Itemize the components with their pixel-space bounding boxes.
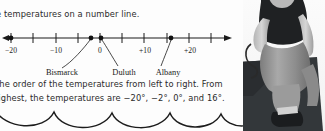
axis-arrow-right-icon — [224, 35, 232, 41]
axis-tick-label-plus20: +20 — [184, 46, 196, 55]
axis-tick-label-minus10: −10 — [50, 46, 62, 55]
axis-tick-label-minus20: −20 — [5, 46, 17, 55]
leader-line-duluth — [102, 40, 118, 66]
leader-line-bismarck — [62, 40, 90, 68]
city-label-albany: Albany — [156, 68, 181, 77]
leader-line-albany — [161, 40, 171, 66]
conclusion-sentence-line-1: the order of the temperatures from left … — [0, 79, 223, 90]
axis-tick-label-plus10: +10 — [139, 46, 151, 55]
person-crouching-photo — [243, 0, 325, 131]
city-label-duluth: Duluth — [112, 68, 136, 77]
scalloped-cloud-border — [0, 100, 268, 131]
axis-arrow-left-icon — [2, 35, 9, 41]
city-label-bismarck: Bismarck — [46, 68, 79, 77]
data-point-duluth — [99, 36, 104, 41]
data-point-albany — [169, 36, 174, 41]
worksheet-page: e temperatures on a number line. −20 — [0, 0, 325, 131]
data-point-minus20 — [9, 36, 14, 41]
data-point-bismarck — [89, 36, 94, 41]
intro-sentence: e temperatures on a number line. — [0, 9, 139, 20]
number-line-diagram: −20 −10 0 +10 +20 Bismarck Duluth Albany — [0, 26, 245, 78]
axis-tick-label-zero: 0 — [98, 46, 102, 55]
